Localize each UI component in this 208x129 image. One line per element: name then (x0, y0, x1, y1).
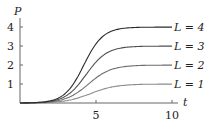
y-tick-label: 4 (7, 21, 14, 34)
y-axis-label: P (13, 5, 22, 18)
x-tick-label: 10 (165, 109, 179, 122)
series-label-L2: L = 2 (173, 59, 205, 72)
series-label-L3: L = 3 (173, 40, 205, 53)
ticks: 1234510 (7, 21, 179, 122)
series-label-L4: L = 4 (173, 21, 205, 34)
series-label-L1: L = 1 (173, 78, 205, 91)
labels: L = 1L = 2L = 3L = 4 (173, 21, 205, 91)
y-tick-label: 3 (7, 40, 14, 53)
y-tick-label: 2 (7, 59, 14, 72)
x-tick-label: 5 (93, 109, 100, 122)
chart: 1234510 L = 1L = 2L = 3L = 4 P t (0, 0, 208, 129)
x-axis-label: t (183, 96, 188, 109)
y-tick-label: 1 (7, 78, 14, 91)
curve-L3 (20, 46, 172, 103)
curves (20, 27, 172, 103)
